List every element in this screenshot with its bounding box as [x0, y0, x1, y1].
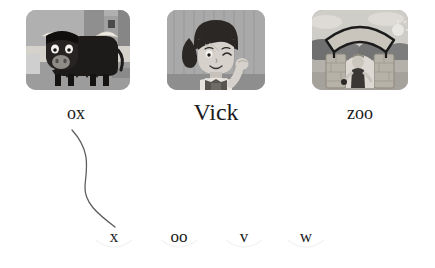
grapheme-w[interactable]: w: [276, 228, 336, 245]
grapheme-label-x: x: [110, 227, 119, 246]
grapheme-v[interactable]: v: [214, 228, 274, 245]
word-text-ox: ox: [67, 103, 85, 123]
worksheet-page: ox: [0, 0, 435, 268]
grapheme-x[interactable]: x: [84, 228, 144, 245]
ox-to-x-connector[interactable]: [72, 130, 115, 227]
word-label-zoo: zoo: [310, 104, 410, 122]
word-text-vick: Vick: [193, 99, 238, 125]
vick-picture-card[interactable]: [167, 10, 265, 90]
zoo-picture-card[interactable]: [312, 10, 408, 90]
word-label-ox: ox: [26, 104, 126, 122]
vick-picture: [167, 10, 265, 90]
grapheme-oo[interactable]: oo: [149, 228, 209, 245]
grapheme-label-v: v: [240, 227, 249, 246]
grapheme-label-oo: oo: [171, 227, 188, 246]
ox-picture-card[interactable]: [26, 10, 130, 90]
grapheme-label-w: w: [300, 227, 312, 246]
word-text-zoo: zoo: [347, 103, 373, 123]
zoo-picture: [312, 10, 408, 90]
ox-picture: [26, 10, 130, 90]
word-label-vick: Vick: [166, 100, 266, 124]
